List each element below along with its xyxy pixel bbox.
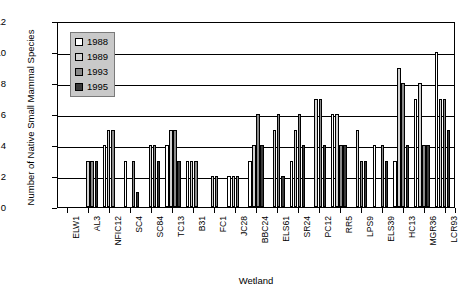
bar-chart: Number of Native Small Mammal Species 02… xyxy=(0,0,468,296)
bar xyxy=(256,114,259,207)
x-label-cell: SR24 xyxy=(287,214,308,272)
bar xyxy=(393,161,396,208)
bar-group xyxy=(287,23,308,207)
bar-groups xyxy=(58,23,454,207)
x-label-cell: ELW1 xyxy=(57,214,78,272)
x-label-cell: HC13 xyxy=(392,214,413,272)
bar xyxy=(447,130,450,208)
bar-group xyxy=(121,23,142,207)
bar xyxy=(381,145,384,207)
bar xyxy=(294,130,297,208)
legend-swatch-icon-1993 xyxy=(75,68,83,76)
bar xyxy=(290,161,293,208)
bar-group xyxy=(411,23,432,207)
x-label-cell: FC1 xyxy=(204,214,225,272)
legend-swatch-icon-1995 xyxy=(75,83,83,91)
bar-group xyxy=(183,23,204,207)
bar xyxy=(397,68,400,208)
x-label-cell: NFIC12 xyxy=(99,214,120,272)
x-label-cell: SC84 xyxy=(141,214,162,272)
x-label-cell: PC12 xyxy=(308,214,329,272)
bar-group xyxy=(225,23,246,207)
bar xyxy=(356,130,359,208)
bar xyxy=(132,161,135,208)
bar xyxy=(298,114,301,207)
bar xyxy=(273,130,276,208)
bar xyxy=(107,130,110,208)
bar xyxy=(190,161,193,208)
bar xyxy=(260,145,263,207)
bar xyxy=(157,161,160,208)
bar xyxy=(186,161,189,208)
y-tick-label: 2 xyxy=(0,171,6,182)
bar xyxy=(422,145,425,207)
bar xyxy=(165,145,168,207)
bar-group xyxy=(246,23,267,207)
y-tick-label: 8 xyxy=(0,78,6,89)
bar xyxy=(426,145,429,207)
x-label-cell: SC4 xyxy=(120,214,141,272)
bar xyxy=(302,145,305,207)
bar xyxy=(360,161,363,208)
y-tick-label: 12 xyxy=(0,16,6,27)
bar xyxy=(414,99,417,208)
bar xyxy=(314,99,317,208)
bar xyxy=(443,99,446,208)
bar xyxy=(232,176,235,207)
bar xyxy=(277,114,280,207)
y-tick-label: 6 xyxy=(0,109,6,120)
legend-item-1988: 1988 xyxy=(75,36,108,48)
bar-group xyxy=(163,23,184,207)
bar xyxy=(86,161,89,208)
x-tick-label: LCR93 xyxy=(449,216,459,243)
legend-label-1988: 1988 xyxy=(87,37,108,47)
bar xyxy=(281,176,284,207)
bar-group xyxy=(432,23,453,207)
bar-group xyxy=(308,23,329,207)
bar xyxy=(335,114,338,207)
bar-group xyxy=(329,23,350,207)
bar-group xyxy=(349,23,370,207)
y-tick-label: 10 xyxy=(0,47,6,58)
bar xyxy=(331,114,334,207)
bar xyxy=(95,161,98,208)
bar xyxy=(136,192,139,208)
x-label-cell: LPS9 xyxy=(350,214,371,272)
bar xyxy=(149,145,152,207)
legend-label-1993: 1993 xyxy=(87,67,108,77)
bar xyxy=(248,161,251,208)
y-axis-title: Number of Native Small Mammal Species xyxy=(25,8,36,228)
bar xyxy=(439,99,442,208)
plot-area: 1988 1989 1993 1995 xyxy=(57,22,455,208)
x-label-cell: AL3 xyxy=(78,214,99,272)
bar-group xyxy=(391,23,412,207)
bar xyxy=(211,176,214,207)
bar xyxy=(169,130,172,208)
legend-item-1989: 1989 xyxy=(75,51,108,63)
legend-label-1989: 1989 xyxy=(87,52,108,62)
bar xyxy=(111,130,114,208)
x-label-cell: LCR93 xyxy=(434,214,455,272)
bar xyxy=(401,83,404,207)
x-label-cell: ELS61 xyxy=(267,214,288,272)
bar xyxy=(343,145,346,207)
legend: 1988 1989 1993 1995 xyxy=(70,32,115,97)
y-tick-label: 4 xyxy=(0,140,6,151)
bar xyxy=(252,145,255,207)
bar xyxy=(177,161,180,208)
bar xyxy=(364,161,367,208)
x-axis-labels: ELW1AL3NFIC12SC4SC84TC13B31FC1JC28BBC24E… xyxy=(57,214,455,272)
legend-item-1995: 1995 xyxy=(75,81,108,93)
bar xyxy=(153,145,156,207)
x-axis-title: Wetland xyxy=(57,275,455,286)
x-label-cell: MGR36 xyxy=(413,214,434,272)
bar xyxy=(173,130,176,208)
bar xyxy=(373,145,376,207)
bar xyxy=(124,161,127,208)
x-label-cell: B31 xyxy=(183,214,204,272)
bar xyxy=(385,161,388,208)
x-label-cell: ELS39 xyxy=(371,214,392,272)
legend-item-1993: 1993 xyxy=(75,66,108,78)
bar xyxy=(236,176,239,207)
legend-swatch-icon-1988 xyxy=(75,38,83,46)
